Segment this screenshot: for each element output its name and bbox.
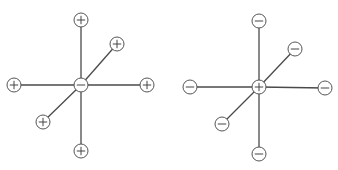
positive-ion (7, 78, 21, 92)
negative-ion (252, 147, 266, 161)
ion-coordination-diagram (0, 0, 338, 170)
negative-ion (215, 117, 229, 131)
positive-ion (36, 115, 50, 129)
positive-ion (74, 144, 88, 158)
positive-ion (140, 78, 154, 92)
bond-line (222, 87, 259, 124)
positive-ion (110, 37, 124, 51)
negative-ion (183, 80, 197, 94)
negative-ion (318, 81, 332, 95)
central-positive-ion (252, 80, 266, 94)
bond-line (43, 85, 81, 122)
negative-ion (288, 42, 302, 56)
bond-line (259, 49, 295, 87)
negative-ion (252, 14, 266, 28)
bond-line (81, 44, 117, 85)
positive-central-ion (183, 14, 332, 161)
bond-line (259, 87, 325, 88)
negative-central-ion (7, 13, 154, 158)
central-negative-ion (74, 78, 88, 92)
positive-ion (74, 13, 88, 27)
